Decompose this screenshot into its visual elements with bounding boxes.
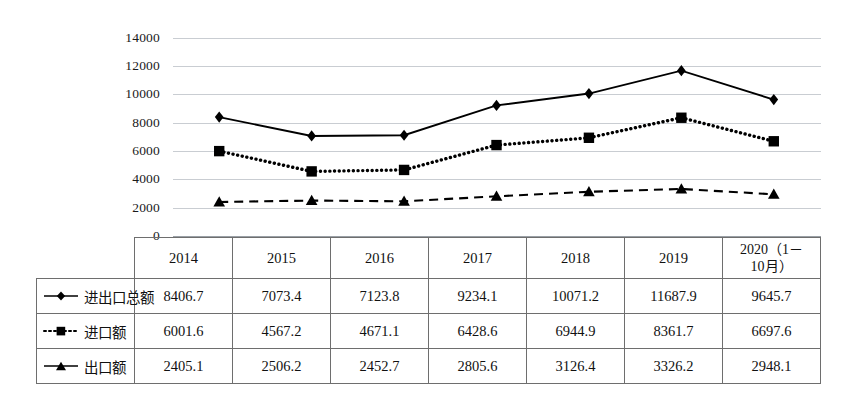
legend-item-total: 进出口总额 — [37, 279, 135, 314]
table-cell: 11687.9 — [625, 279, 723, 314]
table-cell: 2506.2 — [233, 349, 331, 384]
table-cell: 2805.6 — [429, 349, 527, 384]
table-row: 出口额 2405.1 2506.2 2452.7 2805.6 3126.4 3… — [37, 349, 821, 384]
table-cell: 3126.4 — [527, 349, 625, 384]
diamond-marker-icon — [43, 290, 79, 302]
data-table: 2014 2015 2016 2017 2018 2019 2020（1－ 10… — [36, 237, 821, 384]
table-header-2015: 2015 — [233, 238, 331, 279]
legend-label-total: 进出口总额 — [84, 286, 154, 307]
table-cell: 4671.1 — [331, 314, 429, 349]
table-cell: 9645.7 — [723, 279, 821, 314]
table-header-2020: 2020（1－ 10月） — [723, 238, 821, 279]
table-header-2019: 2019 — [625, 238, 723, 279]
table-cell: 2405.1 — [135, 349, 233, 384]
table-cell: 9234.1 — [429, 279, 527, 314]
table-header-2020-line1: 2020（1－ — [740, 242, 803, 257]
legend-item-export: 出口额 — [37, 349, 135, 384]
chart-figure: 14000 12000 10000 8000 6000 4000 2000 0 … — [0, 0, 846, 400]
table-cell: 2948.1 — [723, 349, 821, 384]
table-cell: 8361.7 — [625, 314, 723, 349]
table-cell: 2452.7 — [331, 349, 429, 384]
table-cell: 6428.6 — [429, 314, 527, 349]
table-header-2016: 2016 — [331, 238, 429, 279]
table-header-row: 2014 2015 2016 2017 2018 2019 2020（1－ 10… — [37, 238, 821, 279]
legend-label-export: 出口额 — [84, 356, 126, 377]
square-marker-icon — [43, 325, 79, 337]
series-line-export — [213, 183, 779, 206]
table-cell: 6944.9 — [527, 314, 625, 349]
table-cell: 3326.2 — [625, 349, 723, 384]
table-cell: 10071.2 — [527, 279, 625, 314]
table-cell: 4567.2 — [233, 314, 331, 349]
table-cell: 6697.6 — [723, 314, 821, 349]
table-header-2018: 2018 — [527, 238, 625, 279]
triangle-marker-icon — [43, 360, 79, 372]
series-line-total — [215, 65, 778, 141]
table-row: 进口额 6001.6 4567.2 4671.1 6428.6 6944.9 8… — [37, 314, 821, 349]
table-cell: 6001.6 — [135, 314, 233, 349]
series-line-import — [214, 113, 779, 177]
table-header-2014: 2014 — [135, 238, 233, 279]
table-corner-cell — [37, 238, 135, 279]
table-row: 进出口总额 8406.7 7073.4 7123.8 9234.1 10071.… — [37, 279, 821, 314]
legend-item-import: 进口额 — [37, 314, 135, 349]
chart-plot-area: 14000 12000 10000 8000 6000 4000 2000 0 — [0, 0, 846, 240]
table-header-2017: 2017 — [429, 238, 527, 279]
legend-label-import: 进口额 — [84, 321, 126, 342]
series-layer — [0, 0, 846, 240]
table-cell: 7073.4 — [233, 279, 331, 314]
table-header-2020-line2: 10月） — [751, 259, 793, 274]
table-cell: 7123.8 — [331, 279, 429, 314]
